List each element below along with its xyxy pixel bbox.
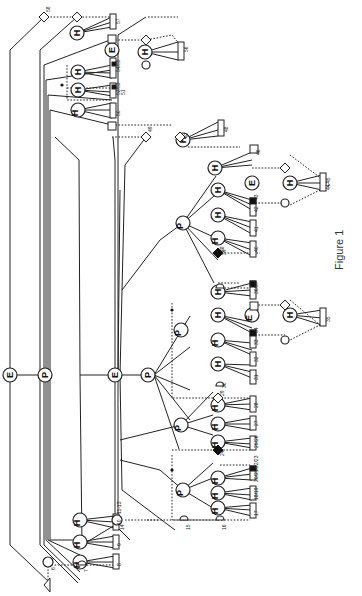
h-node: H	[211, 357, 252, 378]
svg-text:7: 7	[83, 569, 89, 572]
svg-text:30: 30	[221, 382, 227, 388]
svg-text:H: H	[285, 180, 295, 187]
svg-text:H: H	[73, 69, 83, 76]
svg-text:H: H	[72, 520, 82, 527]
p-node-a: P	[175, 216, 190, 230]
svg-text:E: E	[110, 372, 120, 378]
svg-text:E: E	[244, 315, 254, 321]
svg-text:H: H	[72, 30, 82, 37]
svg-text:11-13: 11-13	[116, 501, 122, 514]
svg-text:47: 47	[183, 132, 189, 138]
svg-text:H: H	[210, 493, 220, 500]
svg-text:H: H	[210, 508, 220, 515]
svg-text:H: H	[213, 361, 223, 368]
h-node: H	[211, 208, 252, 234]
e-node-top: E	[105, 43, 119, 57]
trunk-lines	[10, 17, 175, 583]
svg-text:10: 10	[116, 519, 122, 525]
svg-text:20/21/22/23: 20/21/22/23	[253, 455, 259, 482]
svg-text:H: H	[210, 424, 220, 431]
svg-text:41: 41	[253, 226, 259, 232]
svg-text:H: H	[210, 238, 220, 245]
svg-text:H: H	[210, 478, 220, 485]
h-node: H	[210, 468, 252, 485]
family-tree-diagram: H H H H H H H H H H H H H H H H H H H H …	[0, 0, 362, 596]
svg-text:H: H	[210, 405, 220, 412]
svg-text:9: 9	[116, 543, 122, 546]
svg-text:31: 31	[253, 374, 259, 380]
svg-text:P: P	[175, 223, 185, 229]
svg-text:49: 49	[147, 126, 153, 132]
svg-text:35: 35	[325, 316, 331, 322]
h-node: H	[72, 535, 115, 549]
figure-caption: Figure 1	[333, 230, 345, 270]
e-node-root: E	[3, 368, 17, 382]
h-node: H	[70, 103, 112, 118]
h-node: H	[210, 501, 252, 516]
h-node: H	[72, 555, 115, 569]
svg-text:25/26: 25/26	[253, 435, 259, 448]
svg-text:E: E	[5, 372, 15, 378]
svg-text:54/55: 54/55	[115, 59, 121, 72]
p-node-c: P	[173, 418, 188, 432]
svg-text:P: P	[143, 372, 153, 378]
svg-text:17: 17	[253, 510, 259, 516]
svg-text:56: 56	[183, 46, 189, 52]
svg-text:48: 48	[223, 126, 229, 132]
svg-text:H: H	[285, 312, 295, 319]
h-node: H	[72, 513, 115, 528]
svg-text:42: 42	[253, 206, 259, 212]
p-node-b: P	[173, 323, 188, 337]
svg-text:32: 32	[253, 356, 259, 362]
svg-text:H: H	[213, 187, 223, 194]
h-node: H	[210, 333, 252, 355]
svg-text:H: H	[213, 212, 223, 219]
svg-text:57: 57	[115, 18, 121, 24]
svg-text:58: 58	[45, 6, 51, 12]
svg-text:H: H	[140, 49, 150, 56]
p-node-root: P	[38, 368, 52, 382]
svg-text:29: 29	[219, 390, 225, 396]
svg-text:H: H	[72, 542, 82, 549]
svg-text:16: 16	[221, 524, 227, 530]
svg-text:P: P	[173, 330, 183, 336]
h-node: H	[208, 152, 252, 175]
svg-text:E: E	[107, 47, 117, 53]
svg-text:40: 40	[253, 246, 259, 252]
h-node: H	[283, 175, 322, 190]
svg-text:36/37: 36/37	[253, 281, 259, 294]
svg-text:15: 15	[185, 524, 191, 530]
svg-text:E: E	[247, 180, 257, 186]
svg-text:H: H	[213, 312, 223, 319]
svg-text:33: 33	[253, 339, 259, 345]
svg-text:H: H	[213, 289, 223, 296]
h-node: H	[138, 42, 178, 60]
svg-text:50: 50	[115, 110, 121, 116]
e-node-second: E	[108, 368, 122, 382]
svg-text:51: 51	[120, 89, 126, 95]
svg-text:H: H	[70, 110, 80, 117]
svg-text:H: H	[210, 165, 220, 172]
svg-text:34: 34	[253, 327, 259, 333]
h-node: H	[71, 65, 112, 79]
e-node-mid: E	[245, 176, 259, 190]
h-node: H	[210, 486, 252, 500]
svg-text:24: 24	[219, 450, 225, 456]
h-node: H	[210, 417, 252, 431]
h-node: H	[71, 83, 112, 97]
p-node-d: P	[175, 483, 190, 497]
svg-text:P: P	[173, 425, 183, 431]
svg-text:28: 28	[253, 402, 259, 408]
svg-text:46: 46	[255, 149, 261, 155]
svg-text:44 45: 44 45	[325, 177, 331, 190]
svg-text:H: H	[210, 340, 220, 347]
svg-text:8: 8	[116, 563, 122, 566]
svg-text:6: 6	[50, 567, 56, 570]
svg-text:H: H	[73, 87, 83, 94]
svg-text:27: 27	[253, 420, 259, 426]
svg-text:43: 43	[253, 194, 259, 200]
svg-text:P: P	[40, 372, 50, 378]
svg-text:38: 38	[219, 246, 225, 252]
svg-text:P: P	[175, 490, 185, 496]
p-node-second: P	[141, 368, 155, 382]
